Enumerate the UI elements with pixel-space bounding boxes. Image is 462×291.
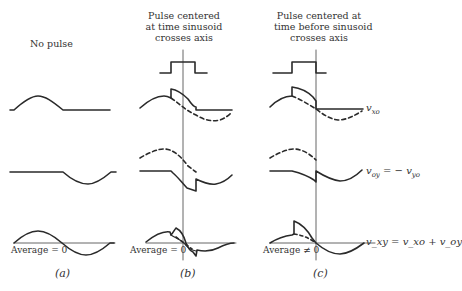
average-label-b: Average = 0 (130, 245, 186, 255)
signal-label-voy: voy = − vyo (366, 165, 420, 179)
c-row1-dashed (292, 96, 362, 120)
c-pulse (273, 62, 326, 73)
column-b-header: Pulse centered at time sinusoid crosses … (144, 10, 224, 43)
b-row2-wave (140, 171, 232, 191)
a-row1-wave (10, 96, 110, 110)
column-a-header: No pulse (30, 38, 73, 49)
average-label-c: Average ≠ 0 (263, 245, 319, 255)
c-row2-dashed (270, 149, 316, 160)
column-c-header: Pulse centered at time before sinusoid c… (274, 10, 364, 43)
average-label-a: Average = 0 (11, 245, 67, 255)
c-row2-wave (270, 170, 362, 182)
b-row1-wave (140, 89, 232, 110)
c-row1-wave (270, 87, 363, 109)
caption-c: (c) (313, 267, 328, 280)
caption-b: (b) (180, 267, 196, 280)
b-row2-dashed (140, 149, 196, 172)
caption-a: (a) (55, 267, 70, 280)
b-pulse (160, 62, 207, 73)
a-row2-wave (10, 172, 116, 184)
signal-label-vxo: vxo (366, 102, 380, 116)
signal-label-vxy: v_xy = v_xo + v_oy (366, 236, 462, 247)
